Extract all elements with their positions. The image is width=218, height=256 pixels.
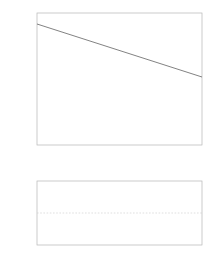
figure-container <box>0 0 218 256</box>
two-panel-scatter-figure <box>0 0 218 256</box>
top-panel-frame <box>37 13 202 145</box>
top-panel <box>37 13 202 145</box>
bottom-panel <box>37 181 202 245</box>
bottom-panel-frame <box>37 181 202 245</box>
